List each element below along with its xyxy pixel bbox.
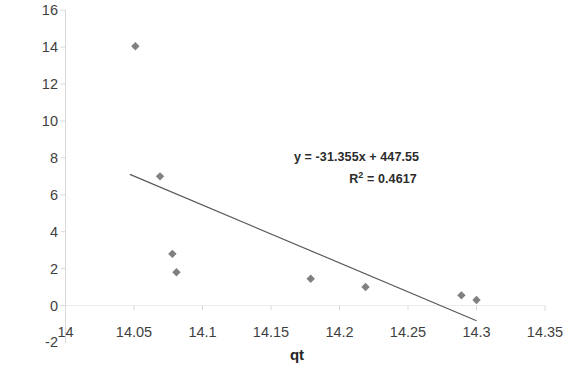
x-tick-label: 14.05 bbox=[99, 325, 169, 339]
x-axis-title: qt bbox=[247, 346, 347, 364]
regression-equation: y = -31.355x + 447.55 bbox=[288, 148, 478, 166]
trendline bbox=[130, 174, 477, 320]
r-squared-value: R2 = 0.4617 bbox=[288, 166, 478, 188]
x-tick-label: 14.15 bbox=[236, 325, 306, 339]
x-tick-label: 14.3 bbox=[442, 325, 512, 339]
data-point-marker bbox=[131, 42, 139, 50]
x-tick-label: 14.2 bbox=[305, 325, 375, 339]
r-squared-rest: = 0.4617 bbox=[363, 172, 416, 186]
y-axis-tick-marks bbox=[61, 10, 66, 305]
x-tick-label: 14 bbox=[31, 325, 101, 339]
y-tick-label: 6 bbox=[12, 188, 58, 202]
data-point-marker bbox=[472, 296, 480, 304]
y-tick-label: 10 bbox=[12, 114, 58, 128]
y-tick-label: 4 bbox=[12, 225, 58, 239]
data-point-marker bbox=[457, 291, 465, 299]
x-tick-label: 14.35 bbox=[510, 325, 568, 339]
y-tick-label: 14 bbox=[12, 40, 58, 54]
y-tick-label: 16 bbox=[12, 3, 58, 17]
y-tick-label: 2 bbox=[12, 262, 58, 276]
y-tick-label: 0 bbox=[12, 299, 58, 313]
x-tick-label: 14.1 bbox=[168, 325, 238, 339]
x-tick-label: 14.25 bbox=[373, 325, 443, 339]
data-point-marker bbox=[307, 275, 315, 283]
data-point-marker bbox=[156, 172, 164, 180]
y-tick-label: 12 bbox=[12, 77, 58, 91]
data-point-marker bbox=[172, 268, 180, 276]
x-axis-tick-marks bbox=[66, 306, 546, 311]
trendline-segment bbox=[130, 174, 477, 320]
data-point-marker bbox=[361, 283, 369, 291]
r-squared-prefix: R bbox=[349, 172, 358, 186]
trendline-annotation: y = -31.355x + 447.55 R2 = 0.4617 bbox=[288, 148, 478, 188]
data-point-marker bbox=[168, 250, 176, 258]
y-tick-label: 8 bbox=[12, 151, 58, 165]
y-axis-tick-labels: -20246810121416 bbox=[0, 0, 58, 371]
